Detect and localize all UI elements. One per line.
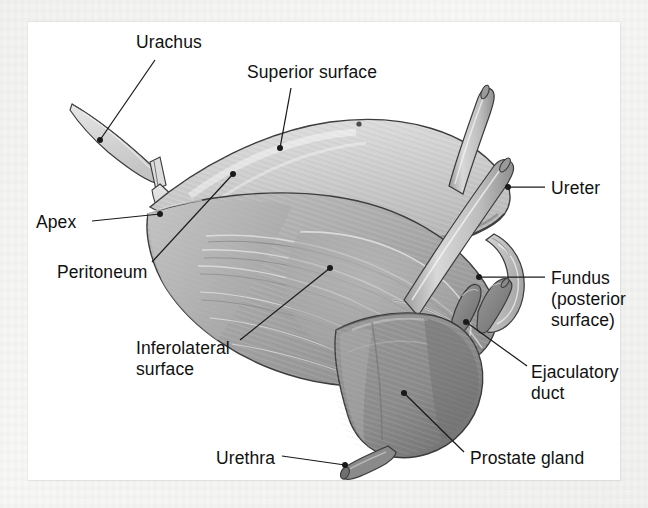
leader-dot-peritoneum xyxy=(230,171,236,177)
leader-line-urethra xyxy=(282,456,345,465)
leader-dot-ejaculatory-duct xyxy=(463,319,469,325)
label-peritoneum: Peritoneum xyxy=(57,262,148,283)
label-prostate-gland: Prostate gland xyxy=(470,448,584,469)
urachus-strip xyxy=(70,104,161,184)
label-apex: Apex xyxy=(36,212,76,233)
leader-dot-prostate-gland xyxy=(401,390,407,396)
leader-dot-urethra xyxy=(342,462,348,468)
leader-dot-urachus xyxy=(97,137,103,143)
leader-line-urachus xyxy=(100,60,155,140)
leader-dot-ureter xyxy=(505,184,511,190)
leader-dot-superior-surface xyxy=(277,145,283,151)
leader-dot-apex xyxy=(157,211,163,217)
label-ureter: Ureter xyxy=(551,178,600,199)
leader-dot-fundus xyxy=(476,274,482,280)
label-ejaculatory-duct: Ejaculatory duct xyxy=(531,362,619,404)
leader-dot-inferolateral-surface xyxy=(327,265,333,271)
figure-root: UrachusSuperior surfaceUreterApexPeriton… xyxy=(0,0,648,508)
label-inferolateral-surface: Inferolateral surface xyxy=(136,338,230,380)
label-superior-surface: Superior surface xyxy=(247,62,377,83)
label-urachus: Urachus xyxy=(136,32,202,53)
label-fundus: Fundus (posterior surface) xyxy=(551,268,626,331)
surface-marking-dot xyxy=(356,121,361,126)
label-urethra: Urethra xyxy=(216,448,275,469)
